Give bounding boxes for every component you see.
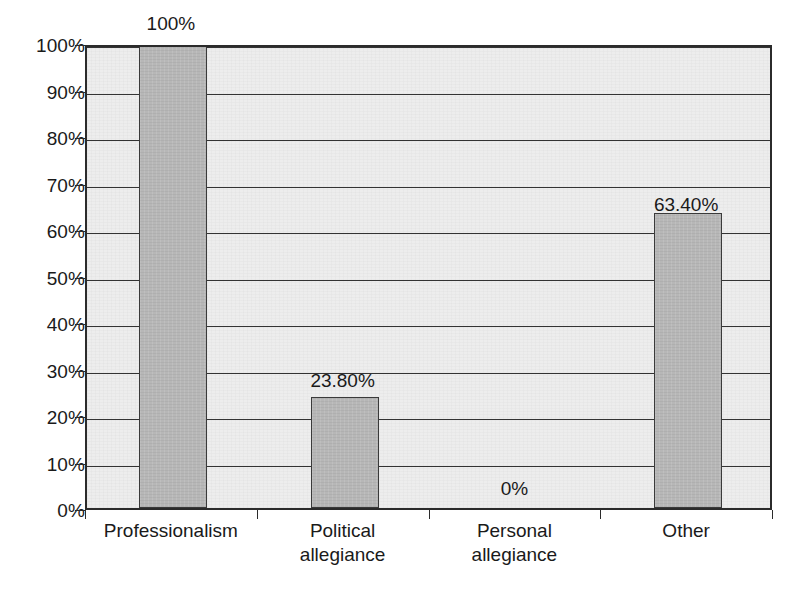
y-tick-mark-40: [75, 324, 85, 325]
plot-area: [85, 45, 772, 510]
bar-professionalism[interactable]: [139, 45, 207, 508]
y-tick-mark-50: [75, 278, 85, 279]
x-tick-mark-0: [85, 510, 86, 519]
x-tick-mark-4: [772, 510, 773, 519]
x-tick-mark-3: [600, 510, 601, 519]
x-tick-mark-1: [257, 510, 258, 519]
y-tick-mark-20: [75, 417, 85, 418]
bar-political-allegiance[interactable]: [311, 397, 379, 508]
x-category-label-line1: Professionalism: [85, 519, 257, 543]
x-category-label-line1: Personal: [429, 519, 601, 543]
value-label-personal-allegiance: 0%: [429, 479, 601, 498]
x-category-label-line1: Political: [257, 519, 429, 543]
y-tick-mark-60: [75, 231, 85, 232]
bar-other[interactable]: [654, 213, 722, 508]
y-tick-mark-10: [75, 464, 85, 465]
x-category-label-professionalism: Professionalism: [85, 519, 257, 543]
y-tick-mark-100: [75, 45, 85, 46]
x-category-label-line2: allegiance: [257, 543, 429, 567]
x-category-label-personal-allegiance: Personal allegiance: [429, 519, 601, 567]
y-tick-mark-90: [75, 92, 85, 93]
x-category-label-line2: allegiance: [429, 543, 601, 567]
bar-chart: 100% 90% 80% 70% 60% 50% 40% 30% 20% 10%…: [0, 0, 793, 589]
value-label-professionalism: 100%: [85, 14, 257, 33]
x-tick-mark-2: [429, 510, 430, 519]
y-tick-mark-30: [75, 371, 85, 372]
y-tick-mark-0: [75, 510, 85, 511]
value-label-other: 63.40%: [600, 195, 772, 214]
x-category-label-line1: Other: [600, 519, 772, 543]
y-axis: 100% 90% 80% 70% 60% 50% 40% 30% 20% 10%…: [0, 0, 85, 589]
y-tick-mark-70: [75, 185, 85, 186]
y-tick-mark-80: [75, 138, 85, 139]
x-category-label-political-allegiance: Political allegiance: [257, 519, 429, 567]
x-category-label-other: Other: [600, 519, 772, 543]
value-label-political-allegiance: 23.80%: [257, 371, 429, 390]
